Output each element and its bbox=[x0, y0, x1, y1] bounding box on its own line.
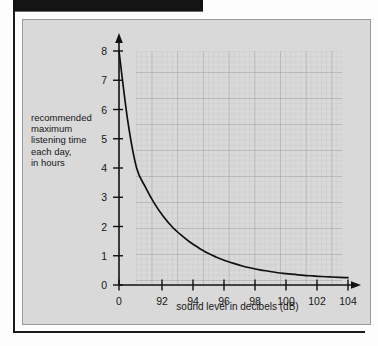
x-tick-label-104: 104 bbox=[339, 295, 357, 307]
y-tick-label-0: 0 bbox=[101, 279, 107, 291]
y-tick-label-2: 2 bbox=[101, 221, 107, 233]
x-tick-label-96: 96 bbox=[218, 295, 230, 307]
figure-panel: recommended maximum listening time each … bbox=[22, 19, 371, 325]
y-tick-label-1: 1 bbox=[101, 250, 107, 262]
x-tick-label-100: 100 bbox=[277, 295, 295, 307]
x-tick-label-102: 102 bbox=[308, 295, 326, 307]
y-tick-label-5: 5 bbox=[101, 133, 107, 145]
plot-area: 0 1 2 3 4 5 6 7 8 bbox=[23, 20, 372, 326]
x-tick-label-92: 92 bbox=[156, 295, 168, 307]
bottom-border-rule bbox=[13, 331, 365, 333]
x-tick-label-94: 94 bbox=[187, 295, 199, 307]
top-black-bar bbox=[13, 0, 203, 12]
chart-grid bbox=[136, 51, 342, 285]
y-tick-label-8: 8 bbox=[101, 45, 107, 57]
x-tick-label-98: 98 bbox=[249, 295, 261, 307]
x-tick-label-0: 0 bbox=[116, 295, 122, 307]
y-tick-label-6: 6 bbox=[101, 104, 107, 116]
y-tick-label-3: 3 bbox=[101, 191, 107, 203]
chart-svg: 0 1 2 3 4 5 6 7 8 bbox=[23, 20, 372, 326]
y-tick-label-7: 7 bbox=[101, 74, 107, 86]
page-root: recommended maximum listening time each … bbox=[0, 0, 378, 346]
left-border-rule bbox=[13, 11, 15, 333]
y-tick-label-4: 4 bbox=[101, 162, 107, 174]
